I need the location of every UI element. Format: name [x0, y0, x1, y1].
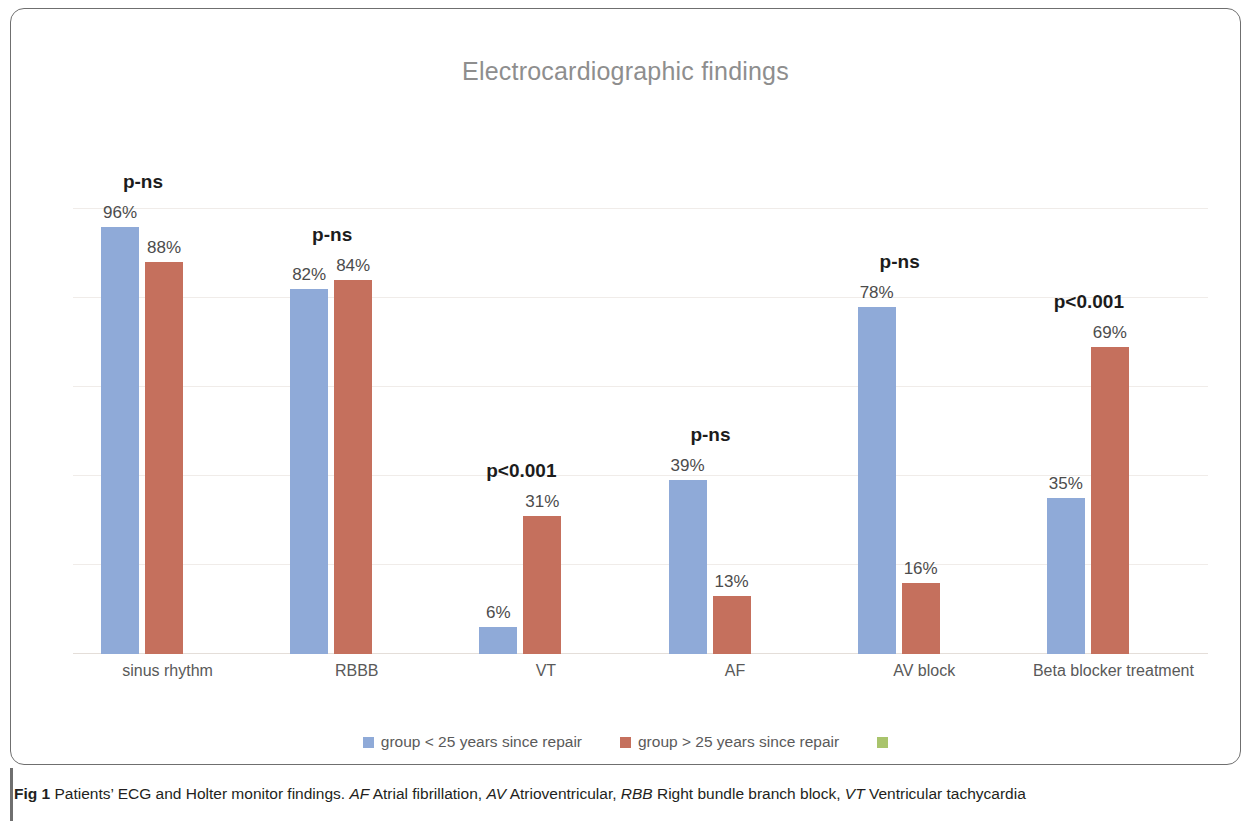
legend-swatch-icon: [620, 737, 631, 748]
bar-value-label: 78%: [847, 283, 907, 303]
p-value-annotation: p-ns: [830, 251, 970, 273]
caption-text: Patients’ ECG and Holter monitor finding…: [50, 785, 349, 802]
category-label: Beta blocker treatment: [1023, 660, 1203, 682]
caption-abbreviation: VT: [845, 785, 865, 802]
caption-abbreviation: AV: [486, 785, 506, 802]
legend-label: group > 25 years since repair: [638, 733, 839, 751]
bar: [145, 262, 183, 654]
p-value-annotation: p<0.001: [1019, 291, 1159, 313]
bar-value-label: 96%: [90, 203, 150, 223]
p-value-annotation: p-ns: [262, 224, 402, 246]
bar-group: 96%88%p-ns: [73, 189, 262, 654]
p-value-annotation: p<0.001: [451, 460, 591, 482]
bar: [669, 480, 707, 654]
bar: [101, 227, 139, 654]
bar: [902, 583, 940, 654]
category-label: VT: [456, 660, 636, 682]
category-label: AF: [645, 660, 825, 682]
bar: [1091, 347, 1129, 654]
category-label: RBBB: [267, 660, 447, 682]
caption-definition: Ventricular tachycardia: [865, 785, 1026, 802]
bar: [858, 307, 896, 654]
caption-definition: Atrial fibrillation,: [369, 785, 486, 802]
legend-swatch-icon: [877, 737, 888, 748]
category-label: AV block: [834, 660, 1014, 682]
bar: [334, 280, 372, 654]
bar-value-label: 69%: [1080, 323, 1140, 343]
bar-value-label: 84%: [323, 256, 383, 276]
caption-abbreviation: RBB: [621, 785, 653, 802]
bar: [479, 627, 517, 654]
caption-definition: Atrioventricular,: [506, 785, 621, 802]
caption-rule: [10, 768, 13, 821]
bar-value-label: 31%: [512, 492, 572, 512]
caption-abbreviation: AF: [349, 785, 369, 802]
legend-item-unlabeled[interactable]: [877, 737, 888, 748]
plot-area: 96%88%p-ns82%84%p-ns6%31%p<0.00139%13%p-…: [73, 189, 1208, 654]
caption-definition: Right bundle branch block,: [653, 785, 845, 802]
category-axis-labels: sinus rhythmRBBBVTAFAV blockBeta blocker…: [73, 660, 1208, 718]
bar-group: 6%31%p<0.001: [451, 189, 640, 654]
bar-group: 82%84%p-ns: [262, 189, 451, 654]
bar-value-label: 6%: [468, 603, 528, 623]
bar-value-label: 13%: [702, 572, 762, 592]
bar-value-label: 88%: [134, 238, 194, 258]
legend-item[interactable]: group < 25 years since repair: [363, 733, 582, 751]
figure-panel: Electrocardiographic findings 96%88%p-ns…: [10, 8, 1241, 765]
legend-label: group < 25 years since repair: [381, 733, 582, 751]
legend-item[interactable]: group > 25 years since repair: [620, 733, 839, 751]
bar-group: 78%16%p-ns: [830, 189, 1019, 654]
bar: [713, 596, 751, 654]
legend-swatch-icon: [363, 737, 374, 748]
bar-group: 35%69%p<0.001: [1019, 189, 1208, 654]
bar: [290, 289, 328, 654]
chart-legend: group < 25 years since repairgroup > 25 …: [11, 733, 1240, 751]
caption-figure-number: Fig 1: [14, 785, 50, 802]
p-value-annotation: p-ns: [73, 171, 213, 193]
p-value-annotation: p-ns: [641, 424, 781, 446]
bar-value-label: 39%: [658, 456, 718, 476]
bar-value-label: 16%: [891, 559, 951, 579]
bar: [523, 516, 561, 654]
bar: [1047, 498, 1085, 654]
chart-title: Electrocardiographic findings: [11, 57, 1240, 86]
bar-value-label: 35%: [1036, 474, 1096, 494]
bar-group: 39%13%p-ns: [641, 189, 830, 654]
figure-root: Electrocardiographic findings 96%88%p-ns…: [0, 0, 1253, 821]
category-label: sinus rhythm: [78, 660, 258, 682]
figure-caption: Fig 1 Patients’ ECG and Holter monitor f…: [14, 784, 1244, 804]
